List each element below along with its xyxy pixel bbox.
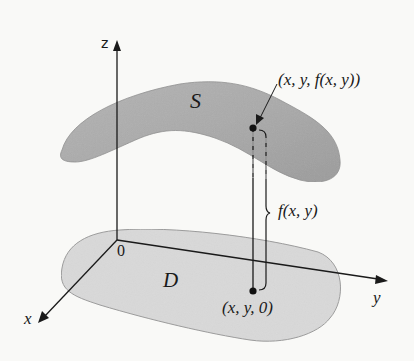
surface-s-label: S [190,90,201,112]
z-axis-arrowhead [113,40,121,51]
region-d-label: D [163,270,178,291]
y-axis-arrowhead [375,275,388,284]
base-point-label: (x, y, 0) [222,299,273,316]
origin-label: 0 [117,243,125,259]
base-point-marker [249,287,256,294]
z-axis-label: z [101,36,108,50]
x-axis-label: x [24,310,32,327]
diagram-canvas [0,0,414,361]
height-label: f(x, y) [278,202,318,219]
surface-over-region-diagram: z y x 0 S D (x, y, f(x, y)) (x, y, 0) f(… [0,0,414,361]
surface-point-marker [249,124,256,131]
region-d-shape [61,229,340,341]
surface-point-label: (x, y, f(x, y)) [278,71,360,88]
y-axis-label: y [373,289,381,306]
